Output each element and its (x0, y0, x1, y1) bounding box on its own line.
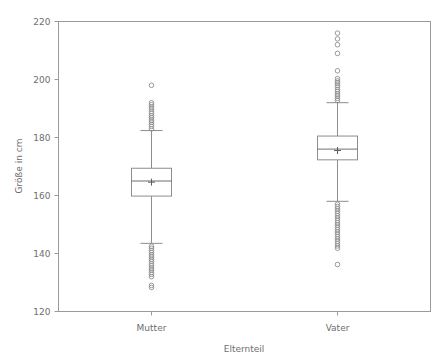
y-tick-label: 160 (33, 191, 50, 201)
outlier-point (335, 37, 340, 42)
y-tick-label: 200 (33, 75, 50, 85)
box-plots (132, 31, 358, 290)
boxplot-mutter (132, 83, 172, 290)
y-tick-label: 220 (33, 17, 50, 27)
boxplot-chart: 120140160180200220 MutterVater Größe in … (0, 0, 445, 364)
x-axis: MutterVater (137, 312, 350, 333)
boxplot-vater (318, 31, 358, 267)
outlier-point (335, 69, 340, 74)
y-tick-label: 180 (33, 133, 50, 143)
outlier-point (149, 83, 154, 88)
x-axis-title: Elternteil (224, 344, 265, 354)
outlier-point (335, 31, 340, 36)
y-axis-title: Größe in cm (14, 139, 24, 194)
chart-canvas: 120140160180200220 MutterVater Größe in … (0, 0, 445, 364)
x-tick-label: Mutter (137, 323, 167, 333)
y-tick-label: 120 (33, 307, 50, 317)
plot-area-frame (59, 22, 431, 312)
outlier-point (335, 262, 340, 267)
y-tick-label: 140 (33, 249, 50, 259)
y-axis: 120140160180200220 (33, 17, 58, 317)
x-tick-label: Vater (326, 323, 350, 333)
outlier-point (335, 42, 340, 47)
outlier-point (335, 51, 340, 56)
